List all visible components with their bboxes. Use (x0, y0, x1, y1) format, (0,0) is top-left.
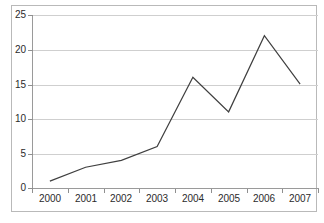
series-layer (0, 0, 324, 223)
line-chart: 25 20 15 10 5 0 2000 2001 2002 2003 2004… (0, 0, 324, 223)
series-line (50, 36, 300, 181)
